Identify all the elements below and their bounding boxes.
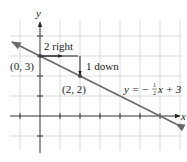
point-b-label: (2, 2) (62, 83, 86, 96)
x-axis-label: x (180, 110, 186, 122)
equation-label: y = − 1 2 x + 3 (123, 82, 182, 96)
y-axis-label: y (35, 7, 41, 19)
run-label: 2 right (44, 40, 73, 52)
svg-text:1: 1 (153, 82, 156, 88)
grid (10, 20, 182, 150)
function-line (12, 42, 176, 124)
svg-text:x + 3: x + 3 (157, 83, 182, 95)
svg-text:2: 2 (153, 90, 156, 96)
svg-text:y = −: y = − (123, 83, 149, 95)
point-0-3 (38, 54, 42, 58)
point-2-2 (78, 74, 82, 78)
coordinate-graph: y x (0, 3) (2, 2) 2 right 1 down y = − 1… (0, 0, 187, 162)
rise-label: 1 down (86, 60, 119, 72)
point-a-label: (0, 3) (10, 60, 34, 73)
